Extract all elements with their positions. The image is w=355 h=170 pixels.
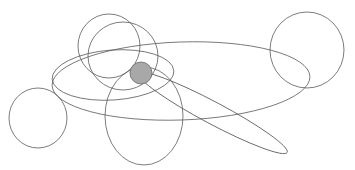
figure-canvas	[0, 0, 355, 170]
canvas-background	[0, 0, 355, 170]
ellipse-figure	[0, 0, 355, 170]
ellipse-center-filled	[130, 62, 152, 84]
